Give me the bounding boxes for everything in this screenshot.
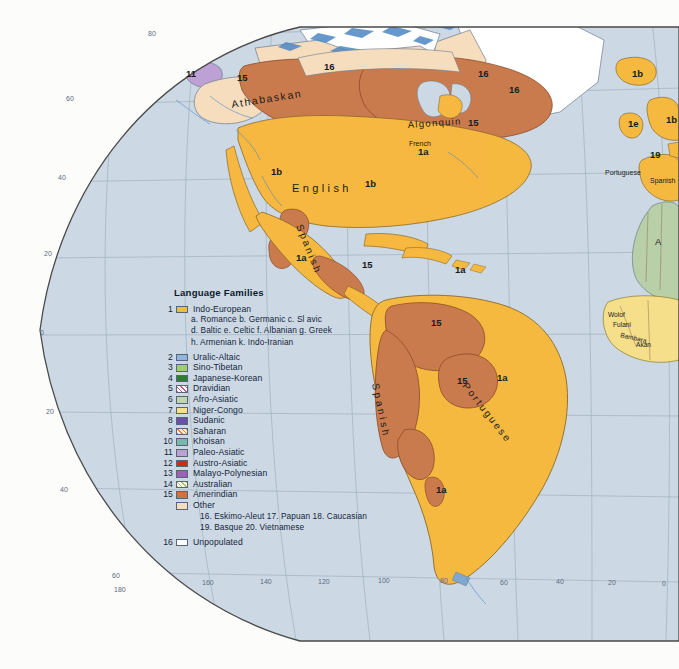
svg-text:60: 60 (66, 95, 74, 102)
svg-text:1a: 1a (436, 484, 447, 495)
legend-title: Language Families (174, 288, 395, 298)
label-fulani: Fulani (613, 321, 631, 328)
label-spanish-europe: Spanish (650, 177, 675, 185)
legend-item-malayo-polynesian[interactable]: 13 Malayo-Polynesian (160, 469, 395, 478)
legend-number: 13 (160, 469, 176, 478)
svg-text:11: 11 (186, 68, 197, 79)
legend-swatch-amerindian (176, 491, 188, 499)
svg-text:16: 16 (324, 61, 335, 72)
legend-number: 7 (160, 406, 176, 415)
legend-label: Malayo-Polynesian (193, 469, 267, 478)
legend-sub-other-2: 19. Basque 20. Vietnamese (200, 523, 395, 533)
legend-label: Dravidian (193, 384, 230, 393)
svg-text:140: 140 (260, 578, 272, 585)
legend-sub-other-1: 16. Eskimo-Aleut 17. Papuan 18. Caucasia… (200, 512, 395, 522)
svg-text:1a: 1a (455, 264, 466, 275)
svg-text:1a: 1a (497, 372, 508, 383)
svg-text:60: 60 (112, 572, 120, 579)
legend-item-japanese-korean[interactable]: 4 Japanese-Korean (160, 374, 395, 383)
legend-item-other[interactable]: Other (160, 501, 395, 510)
legend-number: 10 (160, 437, 176, 446)
legend-swatch-malayo-polynesian (176, 470, 188, 478)
legend-number: 15 (160, 490, 176, 499)
legend-number: 1 (160, 305, 176, 314)
svg-text:80: 80 (440, 577, 448, 584)
svg-text:1b: 1b (365, 178, 376, 189)
legend-item-sino-tibetan[interactable]: 3 Sino-Tibetan (160, 363, 395, 372)
legend-swatch-dravidian (176, 385, 188, 393)
legend-sub-indo-european-3: h. Armenian k. Indo-Iranian (191, 338, 395, 348)
legend-item-niger-congo[interactable]: 7 Niger-Congo (160, 406, 395, 415)
legend-swatch-saharan (176, 428, 188, 436)
label-afro-asiatic-a: A (655, 236, 662, 247)
legend-number: 12 (160, 459, 176, 468)
svg-text:15: 15 (431, 317, 442, 328)
legend-item-sudanic[interactable]: 8 Sudanic (160, 416, 395, 425)
legend-number: 4 (160, 374, 176, 383)
legend-item-dravidian[interactable]: 5 Dravidian (160, 384, 395, 393)
label-french: French (409, 140, 431, 147)
legend-swatch-austro-asiatic (176, 460, 188, 468)
legend-swatch-other (176, 502, 188, 510)
legend-item-indo-european[interactable]: 1 Indo-European (160, 305, 395, 314)
legend-number: 3 (160, 363, 176, 372)
legend-label: Indo-European (193, 305, 251, 314)
legend-item-australian[interactable]: 14 Australian (160, 480, 395, 489)
svg-text:1b: 1b (666, 114, 677, 125)
legend-sub-indo-european-1: a. Romance b. Germanic c. Sl avic (191, 315, 395, 325)
legend-swatch-sino-tibetan (176, 364, 188, 372)
svg-text:19: 19 (650, 149, 661, 160)
legend-label: Uralic-Altaic (193, 353, 240, 362)
legend-item-saharan[interactable]: 9 Saharan (160, 427, 395, 436)
legend-swatch-indo-european (176, 306, 188, 314)
legend-label: Paleo-Asiatic (193, 448, 244, 457)
svg-text:16: 16 (478, 68, 489, 79)
svg-text:40: 40 (556, 578, 564, 585)
svg-text:40: 40 (60, 486, 68, 493)
legend-item-amerindian[interactable]: 15 Amerindian (160, 490, 395, 499)
legend-number: 6 (160, 395, 176, 404)
legend-item-austro-asiatic[interactable]: 12 Austro-Asiatic (160, 459, 395, 468)
svg-text:60: 60 (500, 579, 508, 586)
legend-label: Other (193, 501, 215, 510)
legend-swatch-khoisan (176, 438, 188, 446)
svg-text:20: 20 (608, 579, 616, 586)
legend-swatch-australian (176, 481, 188, 489)
svg-text:80: 80 (148, 30, 156, 37)
svg-text:15: 15 (237, 72, 248, 83)
legend-swatch-japanese-korean (176, 375, 188, 383)
svg-text:120: 120 (318, 578, 330, 585)
legend-item-uralic-altaic[interactable]: 2 Uralic-Altaic (160, 353, 395, 362)
legend-label: Unpopulated (193, 538, 243, 547)
legend-label: Australian (193, 480, 232, 489)
legend-label: Sudanic (193, 416, 225, 425)
svg-text:20: 20 (44, 250, 52, 257)
legend-number: 16 (160, 538, 176, 547)
legend-number: 14 (160, 480, 176, 489)
map-page: 80 60 40 20 0 20 40 60 180 160 140 120 1… (0, 0, 679, 669)
legend-item-khoisan[interactable]: 10 Khoisan (160, 437, 395, 446)
legend-number: 8 (160, 416, 176, 425)
legend-item-paleo-asiatic[interactable]: 11 Paleo-Asiatic (160, 448, 395, 457)
svg-text:20: 20 (46, 408, 54, 415)
legend-label: Japanese-Korean (193, 374, 262, 383)
legend-label: Saharan (193, 427, 226, 436)
svg-text:180: 180 (114, 586, 126, 593)
legend-label: Niger-Congo (193, 406, 243, 415)
svg-text:15: 15 (362, 259, 373, 270)
legend-swatch-sudanic (176, 417, 188, 425)
legend-number: 11 (160, 448, 176, 457)
legend-item-unpopulated[interactable]: 16 Unpopulated (160, 538, 395, 547)
legend-panel: Language Families 1 Indo-European a. Rom… (160, 288, 395, 548)
legend-number: 5 (160, 384, 176, 393)
legend-swatch-unpopulated (176, 539, 188, 547)
legend-label: Afro-Asiatic (193, 395, 238, 404)
svg-text:15: 15 (468, 117, 479, 128)
label-akan: Akan (636, 341, 651, 348)
label-wolof: Wolof (608, 311, 625, 318)
legend-number: 9 (160, 427, 176, 436)
legend-sub-indo-european-2: d. Baltic e. Celtic f. Albanian g. Greek (191, 326, 395, 336)
svg-text:0: 0 (40, 329, 44, 336)
legend-item-afro-asiatic[interactable]: 6 Afro-Asiatic (160, 395, 395, 404)
legend-number: 2 (160, 353, 176, 362)
